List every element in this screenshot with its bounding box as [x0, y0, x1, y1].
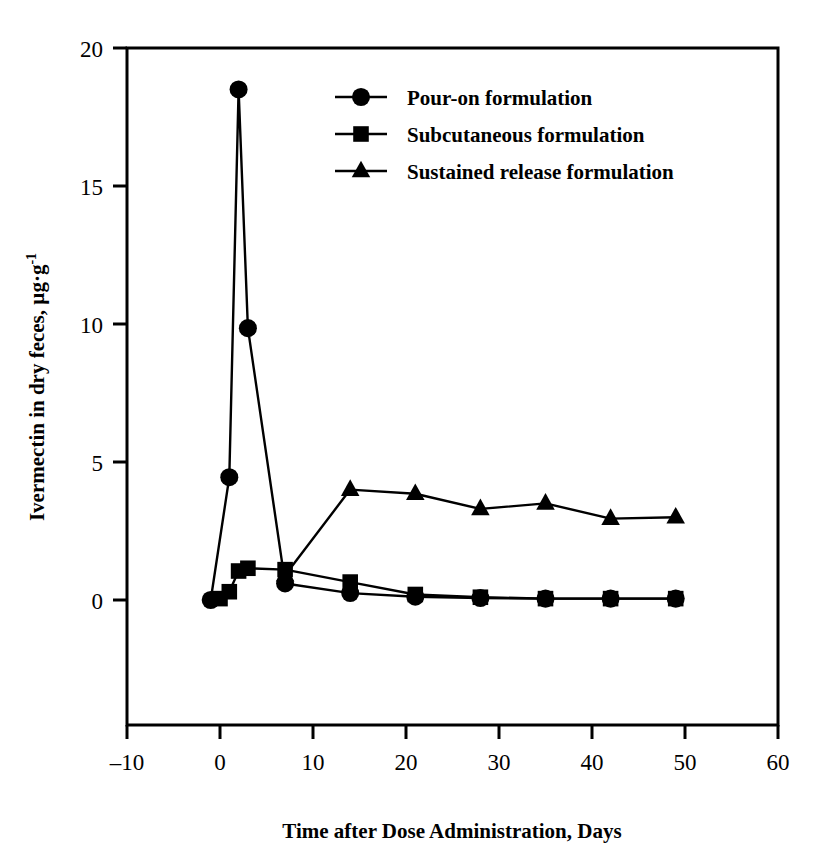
triangle-marker — [341, 479, 360, 496]
y-tick-label: 0 — [92, 589, 104, 614]
x-tick-label: 50 — [674, 750, 697, 775]
legend-item-3[interactable]: Sustained release formulation — [335, 160, 674, 184]
triangle-marker — [352, 161, 371, 178]
legend-item-2[interactable]: Subcutaneous formulation — [335, 123, 645, 147]
x-tick-label: 60 — [767, 750, 790, 775]
chart-canvas: –100102030405060 05101520 Pour-on formul… — [0, 0, 815, 859]
circle-marker — [239, 319, 257, 337]
series-3 — [276, 479, 685, 581]
triangle-marker — [536, 493, 555, 510]
chart-legend: Pour-on formulationSubcutaneous formulat… — [335, 86, 674, 184]
square-marker — [408, 587, 424, 603]
square-marker — [603, 591, 619, 607]
y-axis-tick-labels: 05101520 — [80, 37, 103, 614]
triangle-marker — [406, 483, 425, 500]
circle-marker — [220, 468, 238, 486]
legend-item-1[interactable]: Pour-on formulation — [335, 86, 593, 110]
x-tick-label: 0 — [214, 750, 226, 775]
x-tick-label: 30 — [488, 750, 511, 775]
x-axis-tick-labels: –100102030405060 — [109, 750, 790, 775]
x-axis-title: Time after Dose Administration, Days — [282, 819, 621, 843]
circle-marker — [230, 80, 248, 98]
y-tick-label: 5 — [92, 451, 104, 476]
x-tick-label: 40 — [581, 750, 604, 775]
y-tick-label: 20 — [80, 37, 103, 62]
figure-container: –100102030405060 05101520 Pour-on formul… — [0, 0, 815, 859]
plot-frame — [127, 48, 778, 725]
square-marker — [222, 584, 238, 600]
square-marker — [538, 591, 554, 607]
square-marker — [353, 126, 369, 142]
y-tick-label: 15 — [80, 175, 103, 200]
y-axis-ticks — [113, 48, 127, 600]
y-axis-title-group: Ivermectin in dry feces, µg·g-1 — [24, 253, 49, 521]
x-tick-label: 10 — [302, 750, 325, 775]
triangle-marker — [666, 507, 685, 524]
x-axis-ticks — [127, 725, 778, 739]
legend-label: Subcutaneous formulation — [407, 123, 645, 147]
legend-label: Sustained release formulation — [407, 160, 674, 184]
y-axis-title: Ivermectin in dry feces, µg·g-1 — [24, 253, 49, 521]
legend-label: Pour-on formulation — [407, 86, 593, 110]
square-marker — [240, 560, 256, 576]
x-tick-label: 20 — [395, 750, 418, 775]
circle-marker — [352, 88, 370, 106]
square-marker — [342, 574, 358, 590]
x-tick-label: –10 — [109, 750, 145, 775]
y-tick-label: 10 — [80, 313, 103, 338]
square-marker — [668, 591, 684, 607]
square-marker — [473, 589, 489, 605]
